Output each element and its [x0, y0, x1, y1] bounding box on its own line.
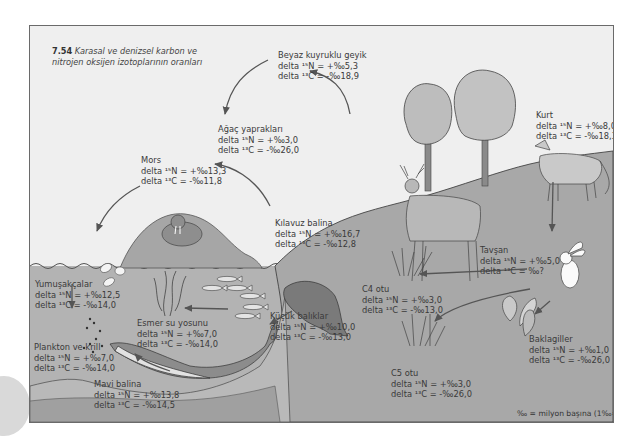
label-plankton-ve-krill: Plankton ve krill delta ¹⁵N = +‰7,0 delt… [34, 342, 115, 374]
figure-title-line2: nitrojen oksijen izotoplarının oranları [52, 57, 202, 67]
page-edge-tab [0, 376, 30, 436]
label-kurt: Kurt delta ¹⁵N = +‰8,0 delta ¹³C = -‰18,… [536, 110, 614, 142]
label-c5-otu: C5 otu delta ¹⁵N = +‰3,0 delta ¹³C = -‰2… [391, 368, 472, 400]
label-c4-otu: C4 otu delta ¹⁵N = +‰3,0 delta ¹³C = -‰1… [362, 284, 443, 316]
label-baklagiller: Baklagiller delta ¹⁵N = +‰1,0 delta ¹³C … [529, 334, 610, 366]
label-beyaz-kuyruklu-geyik: Beyaz kuyruklu geyik delta ¹⁵N = +‰5,3 d… [278, 50, 367, 82]
label-agac-yapraklari: Ağaç yaprakları delta ¹⁵N = +‰3,0 delta … [218, 124, 299, 156]
label-yumusakcalar: Yumuşakçalar delta ¹⁵N = +‰12,5 delta ¹³… [35, 279, 120, 311]
label-esmer-su-yosunu: Esmer su yosunu delta ¹⁵N = +‰7,0 delta … [137, 318, 218, 350]
per-mil-footnote: ‰ = milyon başına (1‰=¹⁄₁₀₀₀) [517, 409, 614, 418]
figure-frame: 7.54 Karasal ve denizsel karbon ve nitro… [29, 25, 614, 423]
label-kilavuz-balina: Kılavuz balina delta ¹⁵N = +‰16,7 delta … [275, 218, 360, 250]
figure-caption: 7.54 Karasal ve denizsel karbon ve nitro… [52, 46, 282, 68]
label-mavi-balina: Mavi balina delta ¹⁵N = +‰13,8 delta ¹³C… [94, 379, 179, 411]
label-kucuk-baliklar: Küçük balıklar delta ¹⁵N = +‰10,0 delta … [270, 311, 355, 343]
label-tavsan: Tavşan delta ¹⁵N = +‰5,0 delta ¹³C = ‰? [480, 245, 560, 277]
figure-title-line1: Karasal ve denizsel karbon ve [75, 46, 197, 56]
figure-number: 7.54 [52, 46, 72, 56]
label-mors: Mors delta ¹⁵N = +‰13,3 delta ¹³C = -‰11… [141, 155, 226, 187]
